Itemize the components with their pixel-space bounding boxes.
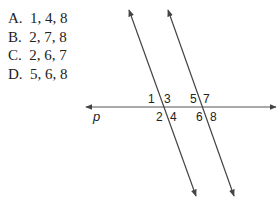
- line-label-p: p: [92, 109, 100, 124]
- angle-label-6: 6: [196, 110, 203, 124]
- transversal-left: [129, 10, 196, 196]
- angle-label-8: 8: [210, 110, 217, 124]
- parallel-lines-diagram: p 1 2 3 4 5 6 7 8: [0, 0, 278, 210]
- angle-label-4: 4: [170, 110, 177, 124]
- angle-label-2: 2: [156, 110, 163, 124]
- angle-label-7: 7: [203, 92, 210, 106]
- angle-label-3: 3: [164, 92, 171, 106]
- angle-label-5: 5: [190, 92, 197, 106]
- transversal-right: [168, 10, 234, 196]
- angle-label-1: 1: [148, 92, 155, 106]
